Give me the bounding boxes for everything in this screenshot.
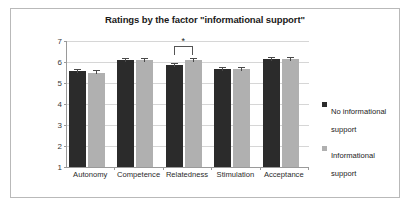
x-tick-label: Competence: [114, 170, 162, 179]
y-axis: 1234567: [38, 41, 62, 167]
y-tick-label: 2: [40, 142, 62, 151]
error-bar-cap: [268, 57, 275, 58]
bar-group: [212, 41, 260, 167]
bar: [69, 71, 86, 167]
bar: [88, 73, 105, 168]
error-bar-cap: [141, 58, 148, 59]
error-bar-cap: [93, 70, 100, 71]
legend-label: Informational support: [331, 151, 375, 178]
error-bar-cap: [171, 63, 178, 64]
legend-swatch-icon: [322, 102, 327, 107]
significance-asterisk: *: [168, 37, 199, 46]
bar-group: [115, 41, 163, 167]
significance-bracket: [174, 46, 193, 55]
bar: [166, 65, 183, 167]
error-bar-cap: [219, 67, 226, 68]
bar: [136, 60, 153, 167]
y-tick-label: 7: [40, 37, 62, 46]
x-tick-mark: [308, 167, 309, 170]
y-tick-label: 3: [40, 121, 62, 130]
bar: [214, 69, 231, 167]
bar-group: [261, 41, 309, 167]
bar: [117, 60, 134, 167]
bar-group: [164, 41, 212, 167]
y-tick-label: 5: [40, 79, 62, 88]
legend-label: No informational support: [331, 107, 386, 134]
gridline: [67, 167, 309, 168]
chart-legend: No informational supportInformational su…: [322, 100, 400, 188]
error-bar-cap: [287, 57, 294, 58]
x-tick-label: Stimulation: [211, 170, 259, 179]
error-bar-cap: [238, 67, 245, 68]
x-tick-label: Relatedness: [163, 170, 211, 179]
error-bar-cap: [74, 69, 81, 70]
legend-entry[interactable]: Informational support: [322, 144, 400, 180]
legend-swatch-icon: [322, 146, 327, 151]
plot-area: *: [66, 41, 308, 167]
bar: [263, 59, 280, 167]
y-tick-label: 1: [40, 163, 62, 172]
y-tick-label: 6: [40, 58, 62, 67]
legend-entry[interactable]: No informational support: [322, 100, 400, 136]
bar-group: [67, 41, 115, 167]
chart-figure: Ratings by the factor "informational sup…: [0, 0, 412, 213]
error-bar-cap: [190, 58, 197, 59]
x-tick-label: Acceptance: [260, 170, 308, 179]
error-bar-cap: [122, 58, 129, 59]
y-tick-label: 4: [40, 100, 62, 109]
chart-title: Ratings by the factor "informational sup…: [60, 14, 350, 25]
x-tick-label: Autonomy: [66, 170, 114, 179]
bar: [282, 59, 299, 167]
bar: [233, 69, 250, 167]
bar: [185, 60, 202, 167]
